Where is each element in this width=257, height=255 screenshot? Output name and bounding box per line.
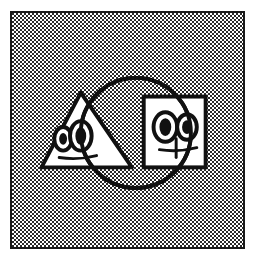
pupil-outer-left [59, 133, 67, 145]
figure-illustration [12, 13, 243, 247]
artwork-frame [10, 11, 245, 249]
pupil-left-right-face [159, 118, 171, 136]
screenshot-canvas [0, 0, 257, 255]
